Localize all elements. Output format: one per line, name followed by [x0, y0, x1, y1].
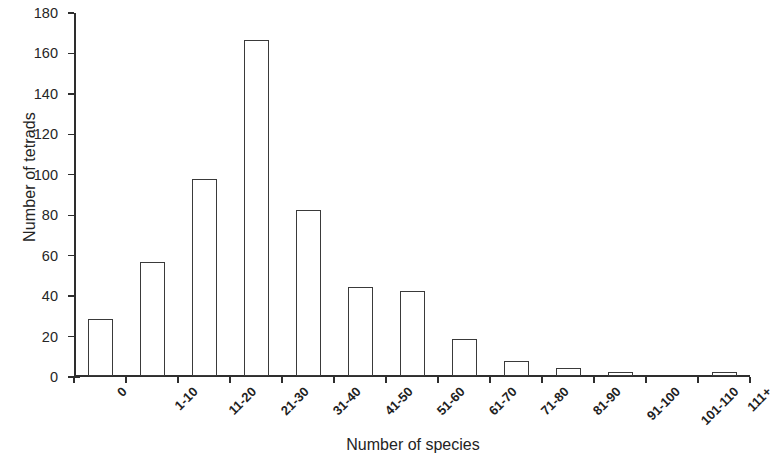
- y-tick-mark: [68, 295, 74, 296]
- x-tick-mark: [333, 377, 334, 383]
- bar: [88, 319, 113, 376]
- x-tick-mark: [229, 377, 230, 383]
- x-tick-mark: [281, 377, 282, 383]
- x-tick-mark: [489, 377, 490, 383]
- x-tick-mark: [541, 377, 542, 383]
- y-tick-mark: [68, 134, 74, 135]
- plot-area: [74, 13, 750, 377]
- x-tick-mark: [125, 377, 126, 383]
- y-tick-mark: [68, 93, 74, 94]
- y-tick-label: 140: [0, 86, 58, 102]
- histogram-figure: Number of tetrads 0204060801001201401601…: [0, 0, 770, 466]
- bar: [244, 40, 269, 376]
- x-tick-label: 81-90: [590, 384, 624, 418]
- x-axis-line: [74, 375, 750, 377]
- y-tick-label: 180: [0, 5, 58, 21]
- y-tick-mark: [68, 174, 74, 175]
- y-tick-label: 0: [0, 369, 58, 385]
- x-tick-mark: [593, 377, 594, 383]
- x-tick-label: 41-50: [382, 384, 416, 418]
- y-tick-label: 60: [0, 248, 58, 264]
- x-tick-mark: [645, 377, 646, 383]
- bar: [348, 287, 373, 376]
- y-tick-label: 120: [0, 126, 58, 142]
- bar: [192, 179, 217, 375]
- x-tick-label: 31-40: [330, 384, 364, 418]
- x-tick-label: 71-80: [538, 384, 572, 418]
- y-tick-mark: [68, 215, 74, 216]
- y-tick-label: 20: [0, 329, 58, 345]
- x-tick-mark: [385, 377, 386, 383]
- x-tick-mark: [749, 377, 750, 383]
- x-tick-mark: [437, 377, 438, 383]
- x-tick-mark: [73, 377, 74, 383]
- x-tick-label: 1-10: [172, 384, 201, 413]
- x-tick-mark: [697, 377, 698, 383]
- y-tick-label: 40: [0, 288, 58, 304]
- bar: [712, 372, 737, 376]
- x-tick-label: 0: [114, 384, 130, 400]
- bar: [608, 372, 633, 376]
- bar: [556, 368, 581, 376]
- bar: [140, 262, 165, 375]
- x-tick-mark: [177, 377, 178, 383]
- bar: [504, 361, 529, 375]
- y-tick-label: 160: [0, 45, 58, 61]
- y-axis-line: [74, 13, 76, 377]
- y-tick-label: 80: [0, 207, 58, 223]
- y-tick-mark: [68, 336, 74, 337]
- x-axis-title-text: Number of species: [346, 436, 479, 453]
- bar: [452, 339, 477, 375]
- bar: [296, 210, 321, 376]
- x-tick-label: 101-110: [698, 384, 742, 428]
- y-tick-mark: [68, 12, 74, 13]
- y-tick-mark: [68, 255, 74, 256]
- x-tick-label: 11-20: [226, 384, 260, 418]
- x-tick-label: 51-60: [434, 384, 468, 418]
- x-tick-label: 91-100: [644, 384, 683, 423]
- y-tick-label: 100: [0, 167, 58, 183]
- y-tick-mark: [68, 53, 74, 54]
- x-axis-title: Number of species: [0, 436, 770, 454]
- x-tick-label: 21-30: [278, 384, 312, 418]
- x-tick-label: 61-70: [486, 384, 520, 418]
- bar: [400, 291, 425, 376]
